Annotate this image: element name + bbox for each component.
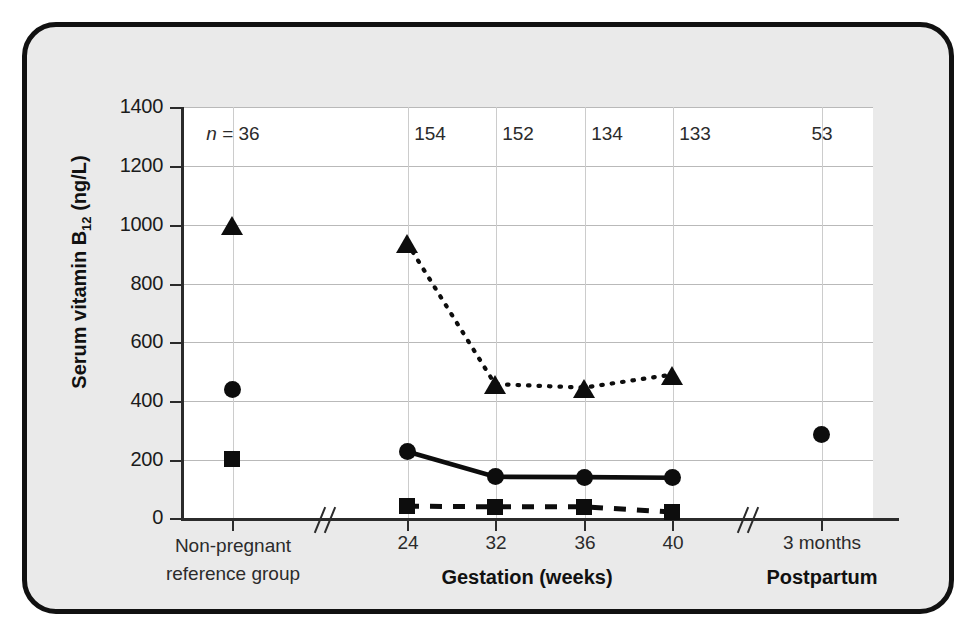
marker-square [576, 499, 592, 515]
marker-triangle [573, 379, 595, 398]
marker-circle [576, 469, 593, 486]
marker-circle [487, 468, 504, 485]
marker-triangle [661, 366, 683, 385]
marker-square [664, 504, 680, 520]
marker-circle [399, 443, 416, 460]
marker-circle [813, 426, 830, 443]
marker-square [399, 498, 415, 514]
marker-square [487, 499, 503, 515]
series-line-upper-percentile [407, 243, 672, 388]
series-lines [27, 27, 949, 609]
marker-square [224, 451, 240, 467]
marker-triangle [396, 234, 418, 253]
series-line-median [407, 452, 672, 478]
marker-circle [224, 381, 241, 398]
chart-stage: 1400 1200 1000 800 600 400 200 0 Serum v… [27, 27, 949, 609]
series-line-lower-percentile [407, 506, 672, 512]
marker-triangle [221, 216, 243, 235]
marker-circle [664, 469, 681, 486]
figure-frame: 1400 1200 1000 800 600 400 200 0 Serum v… [22, 22, 954, 614]
marker-triangle [484, 375, 506, 394]
